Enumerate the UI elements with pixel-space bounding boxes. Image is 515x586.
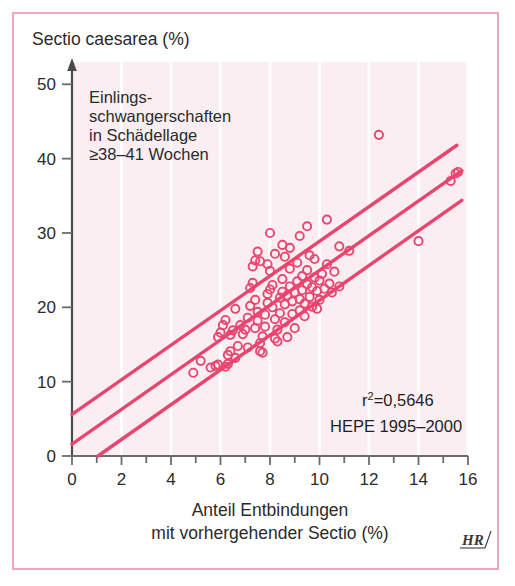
r-squared-label: r2=0,5646 bbox=[362, 390, 434, 409]
y-tick-label: 50 bbox=[37, 75, 56, 94]
y-axis-title: Sectio caesarea (%) bbox=[32, 29, 190, 49]
x-tick-label: 10 bbox=[310, 470, 329, 489]
x-tick-label: 2 bbox=[117, 470, 126, 489]
x-axis-ticks bbox=[72, 456, 468, 465]
x-tick-label: 16 bbox=[459, 470, 478, 489]
figure-page: 0246810121416 01020304050 Sectio caesare… bbox=[0, 0, 515, 586]
credit-mark-text: HR bbox=[461, 532, 484, 548]
note-line-2: schwangerschaften bbox=[89, 107, 231, 125]
x-tick-label: 8 bbox=[265, 470, 274, 489]
y-tick-label: 30 bbox=[37, 224, 56, 243]
credit-mark: HR bbox=[460, 531, 491, 548]
credit-mark-slash bbox=[485, 531, 491, 548]
note-line-3: in Schädellage bbox=[89, 126, 197, 144]
scatter-chart: 0246810121416 01020304050 Sectio caesare… bbox=[0, 0, 515, 586]
x-tick-label: 14 bbox=[409, 470, 428, 489]
r-squared-value: =0,5646 bbox=[374, 391, 434, 409]
y-tick-label: 0 bbox=[47, 447, 56, 466]
y-tick-label: 40 bbox=[37, 150, 56, 169]
x-axis-title-line-1: Anteil Entbindungen bbox=[192, 500, 349, 520]
y-tick-label: 10 bbox=[37, 373, 56, 392]
x-axis-tick-labels: 0246810121416 bbox=[67, 470, 477, 489]
note-line-4: ≥38–41 Wochen bbox=[89, 145, 209, 163]
source-label: HEPE 1995–2000 bbox=[330, 417, 462, 435]
y-axis-tick-labels: 01020304050 bbox=[37, 75, 56, 466]
x-tick-label: 6 bbox=[216, 470, 225, 489]
x-tick-label: 12 bbox=[360, 470, 379, 489]
x-tick-label: 4 bbox=[166, 470, 175, 489]
note-line-1: Einlings- bbox=[89, 88, 152, 106]
y-tick-label: 20 bbox=[37, 298, 56, 317]
x-axis-title-line-2: mit vorhergehender Sectio (%) bbox=[151, 523, 388, 543]
x-tick-label: 0 bbox=[67, 470, 76, 489]
